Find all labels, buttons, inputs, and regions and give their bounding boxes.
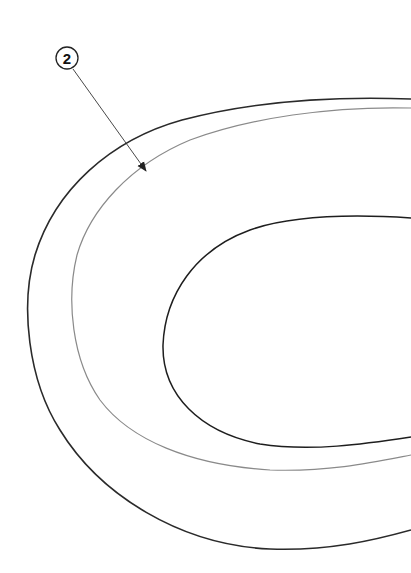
middle-contour — [72, 108, 411, 470]
outer-contour — [28, 98, 411, 549]
drawing-svg: 2 — [0, 0, 411, 573]
leader-arrow — [73, 69, 146, 171]
label-number: 2 — [63, 50, 71, 67]
drawing-canvas: 2 — [0, 0, 411, 573]
reference-label-2: 2 — [56, 47, 146, 171]
inner-contour — [163, 216, 411, 447]
